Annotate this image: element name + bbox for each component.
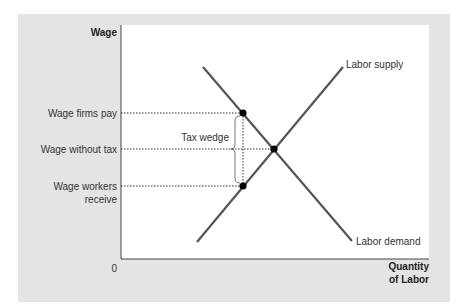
firms-pay-point <box>239 109 246 116</box>
label-wage-firms-pay: Wage firms pay <box>48 108 117 119</box>
labor-demand-curve <box>203 67 352 241</box>
labor-demand-label: Labor demand <box>356 236 421 247</box>
tax-wedge-label: Tax wedge <box>181 132 229 143</box>
y-axis-label: Wage <box>91 27 118 38</box>
workers-receive-point <box>239 182 246 189</box>
x-axis-label-1: Quantity <box>388 261 429 272</box>
label-wage-workers-receive-2: receive <box>85 194 118 205</box>
diagram-svg: Wage Wage firms pay Wage without tax Wag… <box>0 0 450 306</box>
equilibrium-point <box>270 145 277 152</box>
label-wage-without-tax: Wage without tax <box>41 144 117 155</box>
x-axis-label-2: of Labor <box>389 274 429 285</box>
label-wage-workers-receive-1: Wage workers <box>53 181 117 192</box>
origin-label: 0 <box>111 263 117 274</box>
labor-supply-curve <box>197 67 343 242</box>
labor-supply-label: Labor supply <box>346 59 403 70</box>
